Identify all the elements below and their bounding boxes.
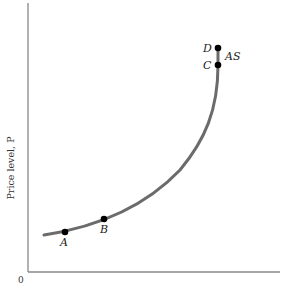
point-b-label: B (99, 223, 108, 236)
as-curve-label: AS (224, 50, 241, 63)
point-a (62, 229, 69, 236)
point-c (215, 62, 222, 69)
point-a-label: A (59, 236, 68, 249)
point-d (215, 45, 222, 52)
as-curve (44, 48, 218, 235)
point-c-label: C (203, 59, 212, 72)
y-axis-label: Price level, P (5, 136, 16, 200)
point-d-label: D (202, 42, 212, 55)
aggregate-supply-chart: Price level, P 0 A B C D AS (0, 0, 283, 291)
point-b (101, 216, 108, 223)
origin-label: 0 (18, 275, 24, 285)
